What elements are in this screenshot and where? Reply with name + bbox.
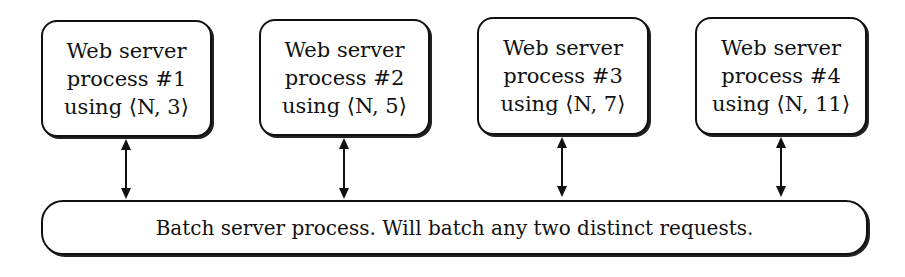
batch-server-label: Batch server process. Will batch any two…	[156, 216, 754, 240]
bidirectional-arrow-3	[557, 137, 567, 197]
bidirectional-arrow-2	[339, 138, 349, 199]
bidirectional-arrow-4	[776, 137, 786, 197]
bidirectional-arrow-1	[121, 139, 131, 199]
batch-server-process: Batch server process. Will batch any two…	[41, 200, 868, 255]
